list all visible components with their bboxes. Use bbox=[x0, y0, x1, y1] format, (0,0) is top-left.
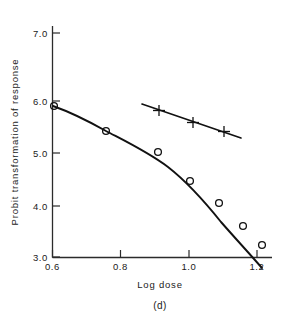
y-tick-label-4.0: 4.0 bbox=[33, 201, 48, 212]
inset-point-3 bbox=[218, 126, 230, 137]
data-point-4 bbox=[187, 178, 194, 185]
y-axis-tick-labels: 7.0 6.0 5.0 4.0 3.0 bbox=[33, 28, 48, 263]
y-axis-ticks bbox=[53, 33, 61, 257]
data-point-markers bbox=[51, 103, 266, 249]
y-tick-label-7.0: 7.0 bbox=[33, 28, 48, 39]
y-tick-label-5.0: 5.0 bbox=[33, 148, 48, 159]
data-point-5 bbox=[216, 200, 223, 207]
x-axis-tick-labels: 0.6 0.8 1.0 1.2 bbox=[45, 261, 265, 272]
inset-comparison-line bbox=[142, 104, 241, 138]
panel-caption: (d) bbox=[153, 300, 166, 311]
data-point-6 bbox=[240, 223, 247, 230]
data-point-7 bbox=[259, 242, 266, 249]
x-tick-label-0.6: 0.6 bbox=[45, 261, 60, 272]
y-tick-label-6.0: 6.0 bbox=[33, 96, 48, 107]
x-axis-title: Log dose bbox=[137, 279, 183, 290]
axis-frame bbox=[53, 26, 273, 258]
chart-figure: 7.0 6.0 5.0 4.0 3.0 0.6 0.8 1.0 1.2 bbox=[0, 0, 299, 320]
probit-dose-response-chart: 7.0 6.0 5.0 4.0 3.0 0.6 0.8 1.0 1.2 bbox=[0, 0, 299, 320]
fitted-curve bbox=[53, 106, 262, 268]
data-point-3 bbox=[155, 149, 162, 156]
inset-point-2 bbox=[187, 117, 199, 128]
inset-point-1 bbox=[153, 105, 165, 116]
x-tick-label-0.8: 0.8 bbox=[113, 261, 128, 272]
x-tick-label-1.0: 1.0 bbox=[181, 261, 196, 272]
y-axis-title: Probit transformation of response bbox=[9, 59, 20, 226]
x-axis-ticks bbox=[53, 250, 258, 258]
